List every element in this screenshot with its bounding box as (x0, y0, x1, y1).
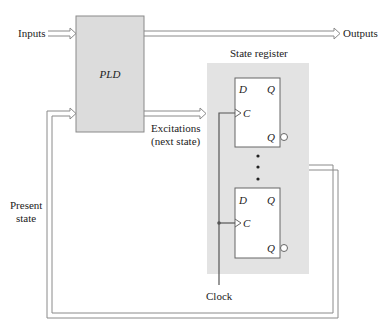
clock-junction-dot (217, 221, 221, 225)
excitations-label-line2: (next state) (151, 135, 201, 148)
ff1-d-label: D (238, 83, 247, 95)
inputs-label: Inputs (18, 27, 46, 39)
ff2-inversion-bubble-icon (281, 245, 288, 252)
pld-block: PLD (76, 16, 144, 132)
ff2-c-label: C (243, 217, 251, 229)
clock-label: Clock (206, 290, 233, 302)
ff2-qbar-label: Q (267, 242, 275, 254)
pld-state-machine-diagram: PLD Inputs Outputs State register Excita… (0, 0, 386, 331)
ff1-inversion-bubble-icon (281, 134, 288, 141)
ff1-q-label: Q (267, 83, 275, 95)
excitations-arrow: Excitations (next state) (144, 108, 206, 148)
ff1-qbar-label: Q (267, 131, 275, 143)
ff2-q-label: Q (267, 194, 275, 206)
present-state-label-line2: state (16, 212, 36, 224)
outputs-label: Outputs (343, 27, 378, 39)
excitations-label-line1: Excitations (151, 122, 201, 134)
pld-label: PLD (99, 68, 121, 80)
flipflop-1: D Q C Q (235, 78, 288, 147)
ff2-d-label: D (238, 194, 247, 206)
state-register-label: State register (230, 47, 288, 59)
flipflop-2: D Q C Q (235, 188, 288, 258)
inputs-arrow: Inputs (18, 27, 76, 39)
ff1-c-label: C (243, 107, 251, 119)
outputs-arrow: Outputs (144, 27, 378, 39)
present-state-label-line1: Present (10, 199, 42, 211)
